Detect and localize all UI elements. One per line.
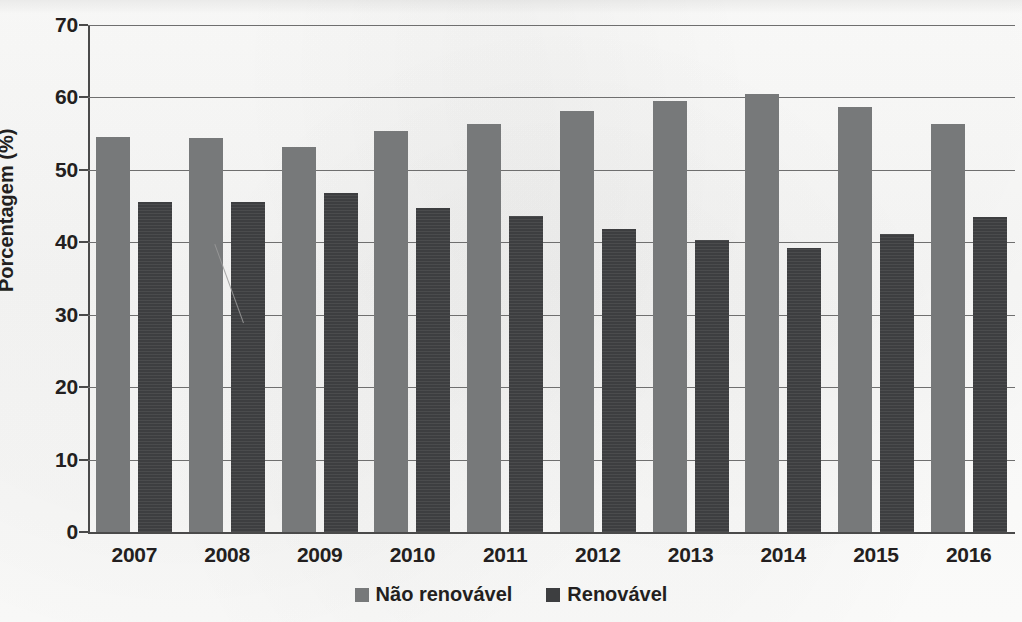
- x-tick-label-2008: 2008: [181, 543, 274, 567]
- y-tick-mark: [79, 169, 88, 171]
- x-tick-label-2014: 2014: [737, 543, 830, 567]
- bar-chart-figure: Porcentagem (%) 010203040506070 20072008…: [0, 0, 1022, 622]
- legend-swatch-icon: [355, 588, 369, 602]
- y-tick-label: 30: [55, 303, 78, 327]
- gridline: [88, 315, 1015, 316]
- x-tick-label-2011: 2011: [459, 543, 552, 567]
- bar-renovavel-2016: [973, 217, 1007, 532]
- bar-renovavel-2007: [138, 202, 172, 532]
- bar-nao-renovavel-2012: [560, 111, 594, 532]
- bar-nao-renovavel-2015: [838, 107, 872, 532]
- y-tick-label: 20: [55, 375, 78, 399]
- gridline: [88, 25, 1015, 26]
- scan-edge-shadow: [0, 0, 1022, 14]
- bar-renovavel-2010: [416, 208, 450, 532]
- bar-renovavel-2012: [602, 229, 636, 532]
- y-tick-label: 10: [55, 448, 78, 472]
- gridline: [88, 387, 1015, 388]
- bar-renovavel-2008: [231, 202, 265, 532]
- x-tick-label-2013: 2013: [644, 543, 737, 567]
- x-tick-label-2007: 2007: [88, 543, 181, 567]
- gridline: [88, 242, 1015, 243]
- y-tick-mark: [79, 531, 88, 533]
- legend-label: Renovável: [567, 583, 667, 606]
- legend-item-nao-renovavel: Não renovável: [355, 583, 513, 606]
- bar-nao-renovavel-2007: [96, 137, 130, 532]
- gridline: [88, 170, 1015, 171]
- bar-renovavel-2011: [509, 216, 543, 532]
- x-tick-label-2010: 2010: [366, 543, 459, 567]
- bar-nao-renovavel-2011: [467, 124, 501, 532]
- bar-renovavel-2014: [787, 248, 821, 532]
- legend-swatch-icon: [546, 588, 560, 602]
- y-tick-mark: [79, 96, 88, 98]
- axis-baseline: [88, 532, 1015, 534]
- y-tick-mark: [79, 24, 88, 26]
- bar-nao-renovavel-2013: [653, 101, 687, 532]
- y-tick-label: 70: [55, 13, 78, 37]
- x-tick-label-2016: 2016: [922, 543, 1015, 567]
- legend-label: Não renovável: [376, 583, 513, 606]
- bar-renovavel-2009: [324, 193, 358, 532]
- y-tick-mark: [79, 241, 88, 243]
- bar-renovavel-2013: [695, 240, 729, 532]
- bar-nao-renovavel-2010: [374, 131, 408, 532]
- bar-nao-renovavel-2008: [189, 138, 223, 532]
- x-tick-label-2015: 2015: [830, 543, 923, 567]
- bar-renovavel-2015: [880, 234, 914, 532]
- chart-legend: Não renovávelRenovável: [0, 583, 1022, 606]
- y-tick-label: 40: [55, 230, 78, 254]
- y-axis-ticks: 010203040506070: [0, 0, 78, 622]
- x-tick-label-2009: 2009: [273, 543, 366, 567]
- bar-nao-renovavel-2016: [931, 124, 965, 532]
- y-tick-mark: [79, 314, 88, 316]
- y-tick-label: 50: [55, 158, 78, 182]
- bar-nao-renovavel-2014: [745, 94, 779, 532]
- x-tick-label-2012: 2012: [552, 543, 645, 567]
- y-tick-mark: [79, 386, 88, 388]
- legend-item-renovavel: Renovável: [546, 583, 667, 606]
- y-tick-mark: [79, 459, 88, 461]
- plot-area: [88, 25, 1015, 532]
- bar-nao-renovavel-2009: [282, 147, 316, 532]
- gridline: [88, 460, 1015, 461]
- y-tick-label: 60: [55, 85, 78, 109]
- y-tick-label: 0: [67, 520, 78, 544]
- gridline: [88, 97, 1015, 98]
